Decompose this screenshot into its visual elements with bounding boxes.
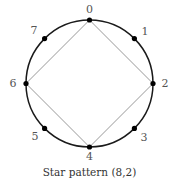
vertex-point <box>150 81 155 86</box>
vertex-label: 3 <box>141 131 148 144</box>
diagram-caption: Star pattern (8,2) <box>43 166 137 178</box>
vertex-label: 1 <box>142 25 149 38</box>
vertex-label: 6 <box>10 77 17 90</box>
vertex-point <box>42 126 47 131</box>
vertex-points <box>23 17 155 149</box>
vertex-label: 4 <box>86 150 93 163</box>
vertex-label: 0 <box>86 3 93 16</box>
vertex-point <box>42 36 47 41</box>
vertex-point <box>87 17 92 22</box>
vertex-point <box>87 144 92 149</box>
vertex-point <box>23 81 28 86</box>
star-pattern-diagram: 01234567 Star pattern (8,2) <box>0 0 176 185</box>
vertex-labels: 01234567 <box>10 3 169 163</box>
vertex-label: 2 <box>162 77 169 90</box>
vertex-label: 5 <box>32 130 39 143</box>
vertex-point <box>132 126 137 131</box>
vertex-point <box>132 36 137 41</box>
vertex-label: 7 <box>31 24 38 37</box>
